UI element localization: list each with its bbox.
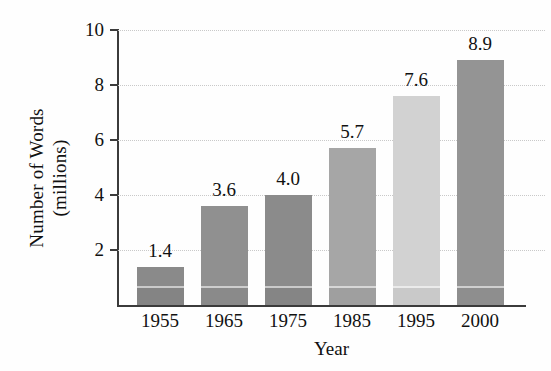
- bar-scanline: [265, 286, 312, 288]
- bar-base-tint: [393, 288, 440, 305]
- bar: [137, 267, 184, 306]
- gridline: [118, 30, 545, 31]
- x-axis-line: [117, 305, 526, 307]
- bar-value-label: 8.9: [440, 34, 520, 53]
- y-axis-tick-label: 8: [64, 75, 104, 94]
- bar-base-tint: [137, 288, 184, 305]
- bar-scanline: [201, 286, 248, 288]
- bar-value-label: 5.7: [312, 122, 392, 141]
- x-axis-tick-label: 2000: [440, 310, 520, 332]
- y-axis-title-line1: Number of Words: [26, 108, 47, 247]
- bar-base-tint: [329, 288, 376, 305]
- y-axis-tick-label: 6: [64, 130, 104, 149]
- y-axis-tick-label: 2: [64, 240, 104, 259]
- bar-scanline: [457, 286, 504, 288]
- plot-area: [118, 30, 545, 305]
- bar-base-tint: [265, 288, 312, 305]
- bar: [329, 148, 376, 305]
- bar-value-label: 7.6: [376, 70, 456, 89]
- bar: [201, 206, 248, 305]
- bar-base-tint: [201, 288, 248, 305]
- bar-value-label: 1.4: [120, 241, 200, 260]
- bar: [393, 96, 440, 305]
- bar-value-label: 4.0: [248, 169, 328, 188]
- bar-scanline: [393, 286, 440, 288]
- bar: [457, 60, 504, 305]
- bar: [265, 195, 312, 305]
- bar-scanline: [329, 286, 376, 288]
- bar-base-tint: [457, 288, 504, 305]
- x-axis-title: Year: [118, 338, 545, 360]
- bar-chart-figure: Number of Words (millions) 246810 1.43.6…: [0, 0, 551, 371]
- bar-scanline: [137, 286, 184, 288]
- y-axis-tick-label: 10: [64, 20, 104, 39]
- y-axis-tick-label: 4: [64, 185, 104, 204]
